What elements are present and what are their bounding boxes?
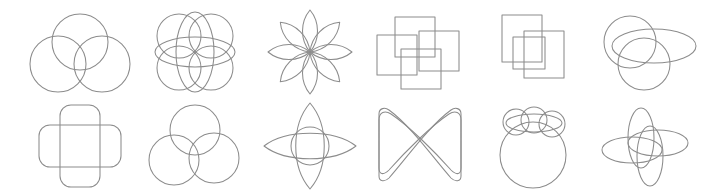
bowtie-ribbon [379, 108, 461, 180]
cascade-square-back [502, 15, 542, 62]
venn-circle-right [74, 36, 130, 92]
star-lens-horizontal [264, 133, 356, 159]
star-lens-vertical [296, 103, 325, 189]
venn-circle-left [30, 36, 86, 92]
grid-ellipse-vertical [176, 12, 214, 92]
four-point-lens-star-icon [255, 100, 365, 192]
bowtie-loop-icon [365, 100, 475, 192]
grid-circle-bottom-right [189, 46, 233, 90]
knot-circle-left [149, 135, 199, 185]
icon-sheet [0, 0, 701, 196]
pinwheel-square-left [377, 35, 417, 75]
venn-circle-top [52, 14, 108, 70]
cross-rect-horizontal [39, 125, 121, 167]
four-ellipse-rosette-icon [592, 100, 701, 192]
rosette-petals [268, 10, 352, 94]
rounded-rect-cross-icon [25, 100, 135, 192]
cascade-square-front [524, 31, 564, 78]
cascade-square-middle [513, 37, 545, 69]
grid-circle-bottom-left [157, 46, 201, 90]
knot-circle-top [170, 105, 220, 155]
bubble-ellipse-horizontal [506, 114, 562, 132]
grid-circle-top-left [157, 14, 201, 58]
quad-circle-ellipse-grid-icon [140, 6, 250, 98]
circle-with-three-bubbles-icon [480, 100, 590, 192]
grid-ellipse-horizontal [155, 37, 235, 67]
knot-circle-right [189, 133, 239, 183]
two-circle-wide-ellipse-icon [592, 6, 701, 98]
grid-circle-top-right [189, 14, 233, 58]
bowtie-ribbon-mirror [379, 108, 461, 180]
star-center-circle [291, 127, 329, 165]
bubble-circle-center [521, 107, 547, 133]
pinwheel-square-right [419, 31, 459, 71]
four-square-pinwheel-icon [365, 6, 475, 98]
three-square-cascade-icon [480, 6, 590, 98]
cross-rect-vertical [60, 105, 100, 187]
three-circle-venn-icon [25, 6, 135, 98]
eight-petal-rosette-icon [255, 6, 365, 98]
three-circle-interlock-knot-icon [140, 100, 250, 192]
